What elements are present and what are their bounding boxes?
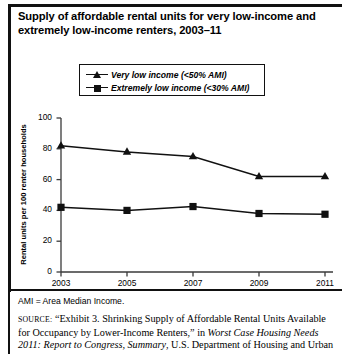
frame-left-rule-lower [8,291,10,354]
x-axis-tick-label: 2003 [41,278,81,288]
chart-legend: Very low income (<50% AMI) Extremely low… [79,64,265,96]
figure-title: Supply of affordable rental units for ve… [18,10,324,37]
figure-container: Supply of affordable rental units for ve… [0,0,344,354]
legend-item-very-low-income: Very low income (<50% AMI) [86,68,258,81]
y-axis-tick-label: 40 [26,204,52,214]
figure-title-line-2: extremely low-income renters, 2003–11 [18,24,324,38]
source-keyword: SOURCE: [18,315,52,324]
y-axis-tick-label: 60 [26,174,52,184]
ami-note: AMI = Area Median Income. [18,296,124,306]
frame-top-rule [8,4,342,7]
frame-bottom-rule [8,289,342,291]
x-axis-tick-label: 2005 [107,278,147,288]
figure-title-line-1: Supply of affordable rental units for ve… [18,10,324,24]
y-axis-tick-label: 80 [26,143,52,153]
x-axis-tick-label: 2011 [305,278,344,288]
y-axis-tick-label: 20 [26,235,52,245]
legend-label-extremely-low-income: Extremely low income (<30% AMI) [111,83,249,93]
source-note: SOURCE: “Exhibit 3. Shrinking Supply of … [18,313,340,352]
legend-label-very-low-income: Very low income (<50% AMI) [111,70,227,80]
y-axis-tick-label: 0 [26,266,52,276]
triangle-marker-icon [86,69,108,80]
x-axis-tick-label: 2009 [239,278,279,288]
x-axis-tick-label: 2007 [173,278,213,288]
y-axis-label: Rental units per 100 renter households [19,115,28,275]
legend-item-extremely-low-income: Extremely low income (<30% AMI) [86,81,258,94]
square-marker-icon [86,82,108,93]
y-axis-tick-label: 100 [26,112,52,122]
frame-left-rule [8,4,11,292]
source-text-part-2: , U.S. Department of Housing and Urban [166,339,333,350]
